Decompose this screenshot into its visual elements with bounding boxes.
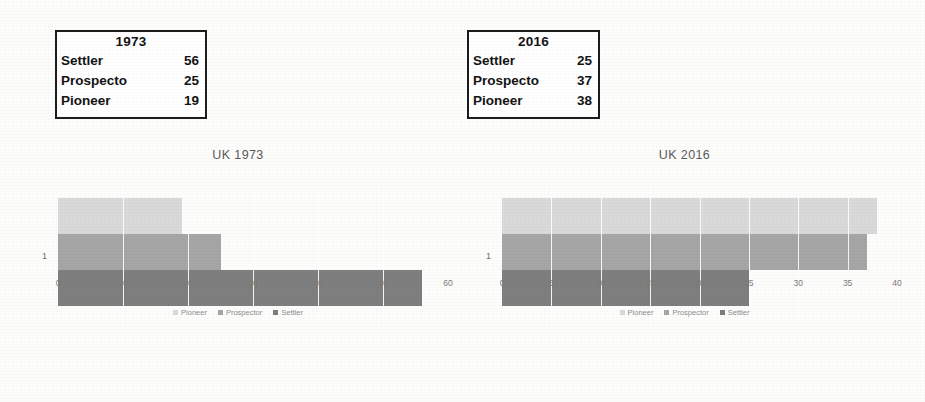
chart-legend: PioneerProspectorSettler bbox=[18, 308, 458, 317]
table-cell-value: 25 bbox=[577, 52, 592, 70]
table-row: Pioneer 19 bbox=[57, 91, 205, 111]
table-cell-value: 56 bbox=[184, 52, 199, 70]
data-table-1973: 1973 Settler 56 Prospecto 25 Pioneer 19 bbox=[55, 30, 207, 119]
document-page: 1973 Settler 56 Prospecto 25 Pioneer 19 … bbox=[0, 0, 925, 402]
chart-uk-1973: UK 1973 1 0102030405060 PioneerProspecto… bbox=[18, 140, 458, 385]
bar-pioneer bbox=[502, 198, 877, 234]
plot-area bbox=[58, 190, 448, 322]
legend-item-pioneer[interactable]: Pioneer bbox=[620, 308, 654, 317]
legend-swatch-icon bbox=[664, 310, 669, 315]
table-row: Settler 56 bbox=[57, 51, 205, 71]
x-axis-tick: 5 bbox=[549, 278, 554, 288]
bar-prospector bbox=[58, 234, 221, 270]
legend-swatch-icon bbox=[273, 310, 278, 315]
bar-prospector bbox=[502, 234, 867, 270]
plot-area-wrapper: 1 bbox=[18, 190, 458, 322]
legend-label: Pioneer bbox=[181, 308, 207, 317]
x-axis-tick: 0 bbox=[500, 278, 505, 288]
chart-title: UK 1973 bbox=[18, 148, 458, 162]
legend-swatch-icon bbox=[218, 310, 223, 315]
y-axis-tick: 1 bbox=[486, 251, 491, 261]
legend-label: Pioneer bbox=[628, 308, 654, 317]
x-axis-tick: 10 bbox=[118, 278, 127, 288]
legend-swatch-icon bbox=[173, 310, 178, 315]
x-axis-tick: 60 bbox=[443, 278, 452, 288]
legend-swatch-icon bbox=[620, 310, 625, 315]
legend-label: Prospector bbox=[226, 308, 262, 317]
x-axis: 0102030405060 bbox=[58, 278, 448, 294]
plot-area bbox=[502, 190, 897, 322]
table-cell-category: Pioneer bbox=[61, 92, 111, 110]
legend-label: Settler bbox=[281, 308, 303, 317]
x-axis: 0510152025303540 bbox=[502, 278, 897, 294]
x-axis-tick: 15 bbox=[645, 278, 654, 288]
table-row: Pioneer 38 bbox=[469, 91, 598, 111]
bar-pioneer bbox=[58, 198, 182, 234]
table-cell-category: Settler bbox=[61, 52, 103, 70]
data-table-2016: 2016 Settler 25 Prospecto 37 Pioneer 38 bbox=[467, 30, 600, 119]
x-axis-tick: 30 bbox=[248, 278, 257, 288]
table-header-2016: 2016 bbox=[469, 32, 598, 51]
y-axis-tick: 1 bbox=[42, 251, 47, 261]
table-cell-category: Prospecto bbox=[61, 72, 127, 90]
legend-item-pioneer[interactable]: Pioneer bbox=[173, 308, 207, 317]
chart-title: UK 2016 bbox=[462, 148, 907, 162]
table-cell-value: 19 bbox=[184, 92, 199, 110]
x-axis-tick: 20 bbox=[183, 278, 192, 288]
x-axis-tick: 25 bbox=[744, 278, 753, 288]
table-row: Prospecto 25 bbox=[57, 71, 205, 91]
legend-item-settler[interactable]: Settler bbox=[273, 308, 303, 317]
plot-area-wrapper: 1 bbox=[462, 190, 907, 322]
legend-label: Prospector bbox=[672, 308, 708, 317]
legend-item-prospector[interactable]: Prospector bbox=[218, 308, 262, 317]
table-cell-category: Prospecto bbox=[473, 72, 539, 90]
chart-uk-2016: UK 2016 1 0510152025303540 PioneerProspe… bbox=[462, 140, 907, 385]
table-row: Prospecto 37 bbox=[469, 71, 598, 91]
table-cell-category: Settler bbox=[473, 52, 515, 70]
table-cell-value: 37 bbox=[577, 72, 592, 90]
x-axis-tick: 0 bbox=[56, 278, 61, 288]
table-cell-category: Pioneer bbox=[473, 92, 523, 110]
x-axis-tick: 40 bbox=[313, 278, 322, 288]
x-axis-tick: 50 bbox=[378, 278, 387, 288]
table-cell-value: 25 bbox=[184, 72, 199, 90]
gridline bbox=[448, 190, 449, 322]
legend-item-settler[interactable]: Settler bbox=[720, 308, 750, 317]
x-axis-tick: 10 bbox=[596, 278, 605, 288]
chart-legend: PioneerProspectorSettler bbox=[462, 308, 907, 317]
table-row: Settler 25 bbox=[469, 51, 598, 71]
x-axis-tick: 40 bbox=[892, 278, 901, 288]
table-cell-value: 38 bbox=[577, 92, 592, 110]
gridline bbox=[897, 190, 898, 322]
table-header-1973: 1973 bbox=[57, 32, 205, 51]
legend-item-prospector[interactable]: Prospector bbox=[664, 308, 708, 317]
legend-label: Settler bbox=[728, 308, 750, 317]
x-axis-tick: 35 bbox=[843, 278, 852, 288]
x-axis-tick: 30 bbox=[794, 278, 803, 288]
legend-swatch-icon bbox=[720, 310, 725, 315]
x-axis-tick: 20 bbox=[695, 278, 704, 288]
